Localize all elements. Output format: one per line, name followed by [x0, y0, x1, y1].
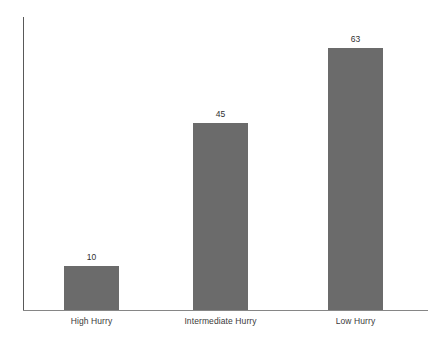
- bar-value-label-1: 10: [44, 252, 139, 262]
- bar-chart: 10 45 63 High Hurry Intermediate Hurry L…: [0, 0, 444, 347]
- bar-3[interactable]: [328, 48, 383, 310]
- x-tick-label-2: Intermediate Hurry: [168, 316, 273, 326]
- plot-area: 10 45 63 High Hurry Intermediate Hurry L…: [0, 0, 444, 347]
- bar-value-label-2: 45: [173, 109, 268, 119]
- y-axis-line: [23, 17, 24, 311]
- x-tick-label-1: High Hurry: [39, 316, 144, 326]
- x-axis-line: [23, 310, 428, 311]
- x-tick-label-3: Low Hurry: [303, 316, 408, 326]
- bar-group-2: 45: [193, 123, 248, 310]
- bar-value-label-3: 63: [308, 34, 403, 44]
- bar-group-3: 63: [328, 48, 383, 310]
- bar-group-1: 10: [64, 266, 119, 310]
- bar-1[interactable]: [64, 266, 119, 310]
- bar-2[interactable]: [193, 123, 248, 310]
